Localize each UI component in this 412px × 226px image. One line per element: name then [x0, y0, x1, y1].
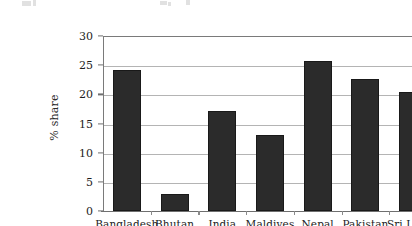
x-axis-tick-label: Bangladesh	[95, 218, 158, 226]
y-axis-tick-label: 10	[79, 146, 93, 159]
y-axis-tick-labels: 051015202530	[40, 16, 103, 226]
x-axis-tick-label: India	[208, 218, 236, 226]
x-axis-tick-mark	[246, 211, 247, 215]
bars-layer	[103, 36, 412, 211]
bar	[351, 79, 379, 211]
scan-artifacts	[0, 0, 412, 10]
bar	[161, 194, 189, 212]
bar	[256, 135, 284, 211]
x-axis-baseline	[101, 211, 412, 212]
x-axis-tick-mark	[294, 211, 295, 215]
x-axis-tick-label: Sri Lanka	[387, 218, 412, 226]
x-axis-tick-mark	[198, 211, 199, 215]
x-axis-tick-mark	[342, 211, 343, 215]
scan-artifact	[160, 1, 167, 5]
y-axis-tick-label: 25	[79, 59, 93, 72]
scan-artifact	[168, 2, 171, 6]
y-axis-tick-label: 20	[79, 88, 93, 101]
x-axis-tick-label: Nepal	[302, 218, 334, 226]
x-axis-tick-label: Pakistan	[342, 218, 388, 226]
y-axis-tick-label: 5	[86, 175, 93, 188]
bar-chart: % share 051015202530 BangladeshBhutanInd…	[40, 16, 412, 226]
scan-artifact	[186, 0, 190, 5]
bar	[399, 92, 412, 211]
y-axis-tick-label: 30	[79, 30, 93, 43]
x-axis-tick-labels: BangladeshBhutanIndiaMaldivesNepalPakist…	[40, 216, 412, 226]
bar	[208, 111, 236, 211]
scan-artifact	[22, 1, 31, 6]
x-axis-tick-mark	[389, 211, 390, 215]
bar	[113, 70, 141, 211]
x-axis-tick-label: Maldives	[246, 218, 295, 226]
x-axis-tick-label: Bhutan	[155, 218, 194, 226]
x-axis-tick-mark	[151, 211, 152, 215]
bar	[304, 61, 332, 212]
scan-artifact	[33, 0, 36, 6]
y-axis-tick-label: 15	[79, 117, 93, 130]
